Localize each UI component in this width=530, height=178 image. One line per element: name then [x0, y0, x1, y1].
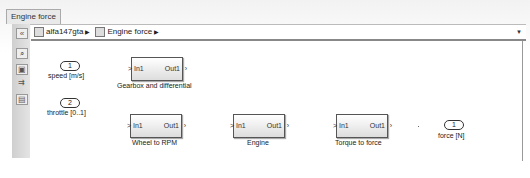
inport-speed[interactable]: 1: [60, 61, 80, 71]
block-engine[interactable]: >In1Out1›: [233, 114, 285, 138]
block-torque-to-force[interactable]: >In1Out1›: [336, 114, 388, 138]
block-wheel-to-rpm[interactable]: >In1Out1›: [130, 114, 182, 138]
hide-browser-icon[interactable]: «: [16, 28, 28, 39]
block-wheel-to-rpm-label: Wheel to RPM: [132, 139, 177, 146]
fit-view-icon[interactable]: ▣: [16, 64, 28, 75]
chevron-right-icon: ▶: [85, 29, 90, 35]
model-icon: [34, 27, 44, 37]
left-toolbar: « ⌕ ▣ ⇉ ▤: [12, 24, 30, 158]
zoom-icon[interactable]: ⌕: [16, 48, 28, 59]
block-gearbox-label: Gearbox and differential: [117, 82, 192, 89]
subsystem-icon: [95, 27, 105, 37]
outport-force[interactable]: 1: [444, 120, 464, 130]
breadcrumb: alfa147gta▶Engine force▶ ▼: [31, 25, 526, 41]
breadcrumb-model[interactable]: alfa147gta: [46, 27, 83, 36]
tab-engine-force[interactable]: Engine force: [6, 9, 61, 24]
inport-speed-label: speed [m/s]: [48, 72, 84, 79]
diagram-canvas[interactable]: 1 speed [m/s] 2 throttle [0..1] >In1Out1…: [31, 41, 523, 161]
chevron-right-icon: ▶: [154, 29, 159, 35]
signal-point: [418, 126, 419, 127]
block-engine-label: Engine: [247, 139, 269, 146]
block-gearbox[interactable]: >In1Out1›: [131, 57, 183, 81]
block-torque-to-force-label: Torque to force: [335, 139, 382, 146]
annotation-icon[interactable]: ▤: [16, 94, 28, 105]
outport-force-label: force [N]: [438, 132, 464, 139]
breadcrumb-subsystem[interactable]: Engine force: [107, 27, 152, 36]
inport-throttle-label: throttle [0..1]: [47, 109, 86, 116]
simulink-window: Engine force « ⌕ ▣ ⇉ ▤ alfa147gta▶Engine…: [0, 0, 530, 178]
inport-throttle[interactable]: 2: [60, 98, 80, 108]
arrow-icon[interactable]: ⇉: [16, 78, 26, 87]
dropdown-arrow-icon[interactable]: ▼: [516, 25, 522, 39]
